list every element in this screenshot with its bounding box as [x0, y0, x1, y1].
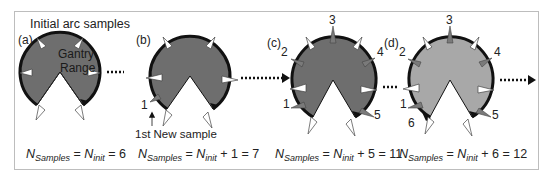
new-sample-caption: 1st New sample	[135, 128, 217, 140]
panel-a-label: (a)	[18, 33, 33, 47]
panel-b-new-sample-1: 1	[141, 98, 148, 112]
figure-title: Initial arc samples	[30, 17, 130, 31]
arrowhead-d-next	[528, 75, 536, 85]
panel-d-sample-5: 5	[492, 108, 499, 122]
panel-d-sample-6: 6	[408, 116, 415, 130]
panel-c-label: (c)	[267, 36, 281, 50]
gantry-label-line2: Range	[60, 61, 95, 75]
panel-b-label: (b)	[136, 33, 151, 47]
arrowhead-b-c	[282, 73, 290, 83]
panel-d-label: (d)	[384, 36, 399, 50]
panel-d-sample-1: 1	[400, 97, 407, 111]
panel-d-sample-3: 3	[446, 13, 453, 27]
panel-d-sample-2: 2	[399, 45, 406, 59]
panel-c-sample-2: 2	[281, 45, 288, 59]
panel-a-equation: NSamples = Ninit = 6	[26, 147, 126, 163]
panel-c-sample-1: 1	[283, 97, 290, 111]
panel-d-gantry-shape	[409, 37, 493, 121]
panel-d-sample-4: 4	[494, 45, 501, 59]
panel-b-gantry-shape	[150, 36, 230, 110]
panel-c-sample-3: 3	[329, 13, 336, 27]
panel-c-sample-4: 4	[377, 45, 384, 59]
panel-b-equation: NSamples = Ninit + 1 = 7	[138, 147, 259, 163]
panel-d-equation: NSamples = Ninit + 6 = 12	[399, 147, 527, 163]
panel-c-equation: NSamples = Ninit + 5 = 11	[275, 147, 402, 163]
panel-c-sample-5: 5	[374, 108, 381, 122]
gantry-label-line1: Gantry	[58, 47, 94, 61]
